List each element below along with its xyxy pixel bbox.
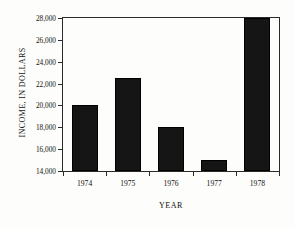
x-tick-label-1977: 1977 [207,179,222,188]
y-axis-title: INCOME, IN DOLLARS [18,23,27,163]
x-tick-mark [63,171,64,176]
y-tick-label: 18,000 [36,123,56,132]
bar-slot [63,18,106,171]
x-tick-mark [149,171,150,176]
y-tick-mark [58,62,63,63]
bar-1976 [158,127,184,171]
x-tick-label-1975: 1975 [120,179,135,188]
plot-area: 14,00016,00018,00020,00022,00024,00026,0… [62,17,280,172]
x-tick-mark [106,171,107,176]
bar-1978 [244,18,270,171]
y-tick-mark [58,149,63,150]
y-tick-mark [58,84,63,85]
bar-slot [193,18,236,171]
y-tick-label: 16,000 [36,145,56,154]
bar-slot [149,18,192,171]
bar-chart-figure: INCOME, IN DOLLARS 14,00016,00018,00020,… [0,0,295,228]
x-tick-label-1978: 1978 [250,179,265,188]
bar-slot [106,18,149,171]
x-axis-title: YEAR [62,201,280,210]
bar-slot [236,18,279,171]
y-tick-mark [58,105,63,106]
bar-1974 [72,105,98,171]
bar-series [63,18,279,171]
y-tick-label: 28,000 [36,14,56,23]
y-tick-label: 22,000 [36,79,56,88]
y-tick-mark [58,127,63,128]
bar-1975 [115,78,141,171]
y-tick-label: 14,000 [36,167,56,176]
x-tick-mark [279,171,280,176]
bar-1977 [201,160,227,171]
y-tick-label: 24,000 [36,57,56,66]
y-tick-mark [58,18,63,19]
y-tick-label: 26,000 [36,35,56,44]
y-tick-mark [58,40,63,41]
x-tick-label-1976: 1976 [163,179,178,188]
y-tick-label: 20,000 [36,101,56,110]
x-tick-mark [193,171,194,176]
x-tick-label-1974: 1974 [77,179,92,188]
x-tick-mark [236,171,237,176]
